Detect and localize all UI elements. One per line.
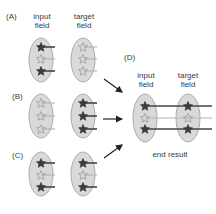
- panel-b: [29, 94, 97, 138]
- panel-c: [29, 152, 97, 196]
- arrows: [103, 79, 122, 158]
- panel-d: [133, 94, 212, 142]
- arrow-a-to-d: [104, 79, 122, 92]
- panel-a: [29, 38, 97, 82]
- diagram-canvas: [0, 0, 216, 214]
- arrow-c-to-d: [104, 145, 122, 158]
- a-target-ellipse: [71, 38, 95, 82]
